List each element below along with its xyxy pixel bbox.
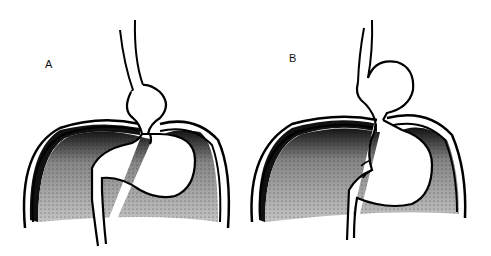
panel-b: [252, 20, 466, 240]
panel-label-a: A: [45, 58, 52, 70]
panel-label-b: B: [289, 52, 296, 64]
esophagus-b: [358, 28, 364, 82]
hiatal-hernia-figure: A B: [0, 0, 491, 256]
hernia-sac-b: [357, 61, 413, 120]
hernia-sac-a: [127, 85, 166, 134]
figure-drawing: [0, 0, 491, 256]
panel-a: [24, 20, 229, 246]
esophagus-a: [120, 30, 133, 92]
